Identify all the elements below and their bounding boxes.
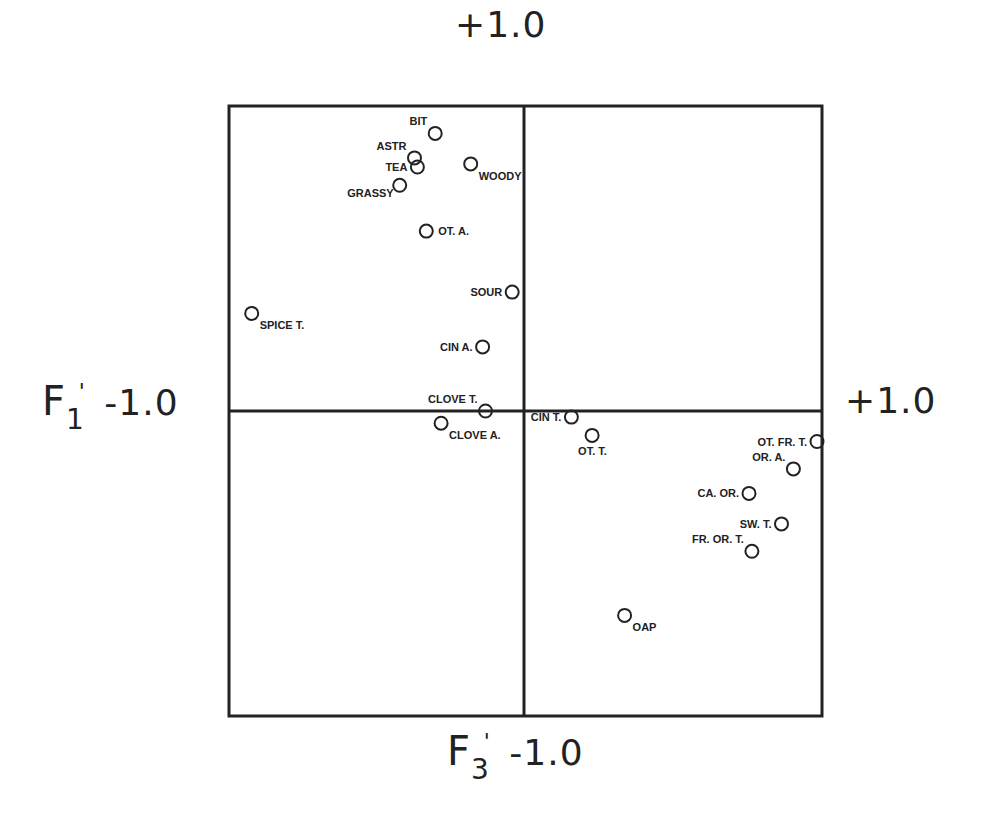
point-label: OT. T.	[578, 445, 607, 457]
point-label: ASTR	[377, 140, 407, 152]
point-label: CLOVE T.	[428, 393, 478, 405]
data-point: WOODY	[464, 157, 522, 182]
data-point: BIT	[409, 115, 441, 139]
point-label: OT. A.	[438, 225, 469, 237]
point-marker-circle-icon	[476, 340, 489, 353]
data-point: SOUR	[470, 286, 518, 299]
point-label: OR. A.	[752, 451, 785, 463]
point-marker-circle-icon	[745, 545, 758, 558]
data-point: GRASSY	[347, 179, 406, 200]
x-factor-subscript: 3	[471, 753, 490, 786]
top-axis-label: +1.0	[455, 4, 546, 45]
point-label: OAP	[633, 621, 657, 633]
right-axis-label: +1.0	[845, 380, 936, 421]
data-point: CIN A.	[440, 340, 489, 353]
y-factor-subscript: 1	[66, 403, 85, 436]
x-factor-prime: '	[484, 729, 491, 754]
point-label: BIT	[409, 115, 427, 127]
data-point: OR. A.	[752, 451, 800, 476]
bottom-axis-label: -1.0	[509, 732, 583, 773]
y-factor-symbol: F	[42, 378, 66, 424]
point-marker-circle-icon	[429, 127, 442, 140]
point-marker-circle-icon	[245, 307, 258, 320]
left-axis-label-group: F1' -1.0	[42, 378, 179, 424]
point-marker-circle-icon	[464, 157, 477, 170]
point-marker-circle-icon	[565, 411, 578, 424]
data-point: CIN T.	[531, 411, 578, 424]
plot-frame	[229, 106, 822, 716]
data-point: OT. A.	[420, 225, 469, 238]
point-label: SW. T.	[740, 518, 772, 530]
point-marker-circle-icon	[408, 151, 421, 164]
data-point: SW. T.	[740, 517, 788, 530]
data-point: FR. OR. T.	[692, 533, 758, 558]
point-marker-circle-icon	[506, 286, 519, 299]
y-factor-prime: '	[79, 379, 86, 404]
point-marker-circle-icon	[743, 487, 756, 500]
x-factor-symbol: F	[447, 728, 471, 774]
point-marker-circle-icon	[411, 161, 424, 174]
point-label: CIN T.	[531, 411, 562, 423]
point-label: WOODY	[479, 170, 522, 182]
point-marker-circle-icon	[420, 225, 433, 238]
point-label: OT. FR. T.	[758, 436, 808, 448]
point-label: TEA	[385, 161, 407, 173]
point-marker-circle-icon	[435, 417, 448, 430]
data-points: BITASTRTEAWOODYGRASSYOT. A.SOURSPICE T.C…	[245, 115, 823, 633]
data-point: OT. T.	[578, 429, 607, 458]
point-label: CLOVE A.	[449, 429, 501, 441]
point-label: SPICE T.	[260, 319, 305, 331]
point-marker-circle-icon	[618, 609, 631, 622]
data-point: CLOVE T.	[428, 393, 492, 418]
point-marker-circle-icon	[393, 179, 406, 192]
data-point: OT. FR. T.	[758, 435, 824, 448]
data-point: OAP	[618, 609, 656, 634]
point-label: FR. OR. T.	[692, 533, 744, 545]
data-point: CA. OR.	[697, 487, 755, 500]
data-point: CLOVE A.	[435, 417, 501, 442]
point-marker-circle-icon	[787, 462, 800, 475]
point-label: CA. OR.	[697, 487, 739, 499]
point-marker-circle-icon	[775, 517, 788, 530]
bottom-axis-label-group: F3' -1.0	[447, 728, 584, 774]
point-label: SOUR	[470, 286, 502, 298]
point-marker-circle-icon	[586, 429, 599, 442]
left-axis-label: -1.0	[104, 382, 178, 423]
data-point: SPICE T.	[245, 307, 304, 332]
point-label: GRASSY	[347, 187, 394, 199]
point-label: CIN A.	[440, 341, 473, 353]
